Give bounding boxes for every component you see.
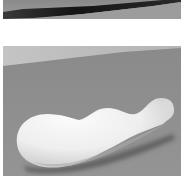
bottom-render-image bbox=[3, 46, 181, 176]
top-render-image bbox=[3, 0, 181, 19]
top-render-panel bbox=[3, 0, 181, 19]
image-canvas bbox=[0, 0, 187, 176]
bottom-render-panel bbox=[3, 46, 181, 176]
